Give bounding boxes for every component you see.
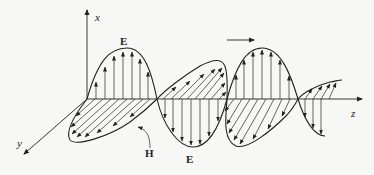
e-field-label-top: E <box>120 35 127 47</box>
x-axis-label: x <box>95 11 100 23</box>
e-field-vectors <box>96 50 321 145</box>
h-field-curve <box>69 60 342 146</box>
h-pointer <box>138 127 150 148</box>
y-axis-label: y <box>17 137 22 149</box>
e-field-label-bottom: E <box>186 153 193 165</box>
y-axis <box>24 99 87 154</box>
z-axis-label: z <box>351 107 355 119</box>
h-field-label: H <box>145 147 154 159</box>
em-wave-diagram: x y z E H E <box>0 0 374 175</box>
wave-drawing <box>0 0 374 175</box>
